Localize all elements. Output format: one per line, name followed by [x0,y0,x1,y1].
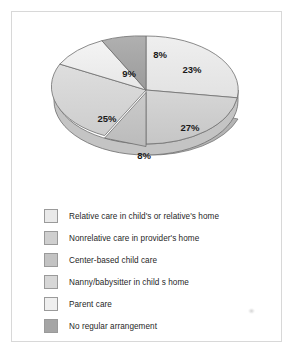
pie-label-parent-care: 9% [122,68,136,79]
legend-item-nanny-babysitter[interactable]: Nanny/babysitter in child s home [44,271,249,293]
pie-label-nanny-babysitter: 8% [137,150,151,161]
pie-chart-area: 23% 27% 8% 25% 9% 8% [12,12,281,197]
legend-item-nonrelative-care[interactable]: Nonrelative care in provider's home [44,227,249,249]
legend-swatch-nanny-babysitter [44,275,58,289]
pie-chart-svg: 23% 27% 8% 25% 9% 8% [12,12,281,197]
scan-artifact-mark [248,308,255,314]
legend-label-parent-care: Parent care [69,300,112,309]
pie-label-relative-care: 23% [182,64,202,75]
legend-label-nonrelative-care: Nonrelative care in provider's home [69,234,199,243]
legend-swatch-no-regular-arrangement [44,319,58,333]
legend-swatch-relative-care [44,209,58,223]
pie-slice-nonrelative-care[interactable] [146,90,237,144]
legend-label-center-based-care: Center-based child care [69,256,157,265]
legend-item-center-based-care[interactable]: Center-based child care [44,249,249,271]
legend-swatch-center-based-care [44,253,58,267]
pie-label-center-based-care: 25% [97,113,117,124]
legend-label-relative-care: Relative care in child's or relative's h… [69,212,219,221]
legend-swatch-nonrelative-care [44,231,58,245]
pie-label-nonrelative-care: 27% [180,122,200,133]
legend-label-no-regular-arrangement: No regular arrangement [69,322,157,331]
chart-legend: Relative care in child's or relative's h… [44,205,249,337]
legend-item-parent-care[interactable]: Parent care [44,293,249,315]
legend-item-no-regular-arrangement[interactable]: No regular arrangement [44,315,249,337]
pie-label-no-regular-arrangement: 8% [153,49,167,60]
legend-swatch-parent-care [44,297,58,311]
chart-page: 23% 27% 8% 25% 9% 8% Relative care in ch… [0,0,296,356]
legend-label-nanny-babysitter: Nanny/babysitter in child s home [69,278,189,287]
legend-item-relative-care[interactable]: Relative care in child's or relative's h… [44,205,249,227]
